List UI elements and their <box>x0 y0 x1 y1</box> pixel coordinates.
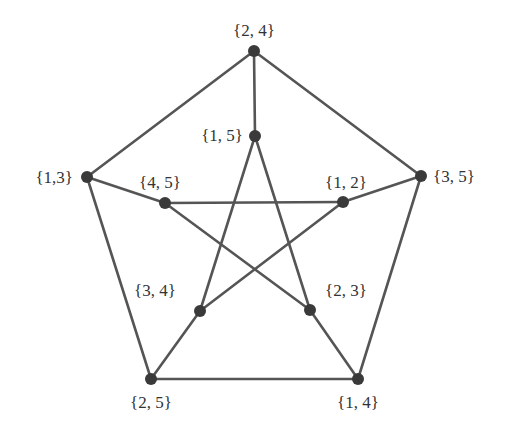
edge-45-12 <box>165 202 343 203</box>
vertex-label-24: {2, 4} <box>233 21 275 40</box>
vertex-13 <box>81 171 93 183</box>
vertex-12 <box>337 196 349 208</box>
edge-12-34 <box>200 202 343 311</box>
vertex-25 <box>145 373 157 385</box>
edge-15-23 <box>255 136 310 310</box>
vertex-23 <box>304 304 316 316</box>
edge-45-23 <box>165 203 310 310</box>
edge-14-23 <box>310 310 358 379</box>
vertex-24 <box>248 45 260 57</box>
vertex-label-13: {1,3} <box>35 168 73 187</box>
vertex-label-14: {1, 4} <box>337 393 379 412</box>
vertex-label-35: {3, 5} <box>433 167 475 186</box>
vertex-45 <box>159 197 171 209</box>
edge-24-13 <box>87 51 254 177</box>
edge-15-34 <box>200 136 255 311</box>
edge-13-25 <box>87 177 151 379</box>
vertex-14 <box>352 373 364 385</box>
vertex-label-34: {3, 4} <box>134 281 176 300</box>
vertex-label-15: {1, 5} <box>201 126 243 145</box>
edge-24-15 <box>254 51 255 136</box>
vertex-label-23: {2, 3} <box>325 281 367 300</box>
vertex-15 <box>249 130 261 142</box>
edge-24-35 <box>254 51 421 176</box>
vertex-34 <box>194 305 206 317</box>
edge-35-14 <box>358 176 421 379</box>
vertex-label-25: {2, 5} <box>130 393 172 412</box>
petersen-graph: {2, 4}{1,3}{3, 5}{2, 5}{1, 4}{1, 5}{4, 5… <box>0 0 506 432</box>
edges-group <box>87 51 421 379</box>
vertex-label-45: {4, 5} <box>139 173 181 192</box>
edge-25-34 <box>151 311 200 379</box>
vertex-35 <box>415 170 427 182</box>
vertex-label-12: {1, 2} <box>325 173 367 192</box>
